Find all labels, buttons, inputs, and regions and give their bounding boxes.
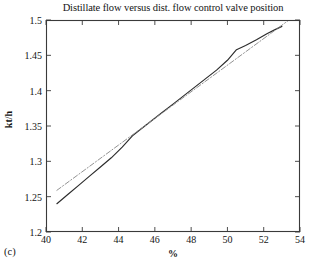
- y-tick-label: 1.25: [25, 191, 43, 202]
- x-tick-label: 46: [150, 234, 160, 245]
- x-tick-label: 44: [114, 234, 124, 245]
- series-measured: [57, 26, 282, 203]
- plot-area: 1.21.251.31.351.41.451.5 404244464850525…: [46, 20, 300, 232]
- x-tick-label: 42: [77, 234, 87, 245]
- series-linear-fit: [57, 19, 291, 191]
- y-tick-label: 1.4: [30, 85, 43, 96]
- x-axis-label: %: [46, 248, 300, 259]
- y-tick-label: 1.35: [25, 121, 43, 132]
- x-tick-label: 48: [186, 234, 196, 245]
- chart-title: Distillate flow versus dist. flow contro…: [46, 1, 300, 15]
- x-tick-label: 52: [259, 234, 269, 245]
- panel-caption: (c): [4, 246, 16, 257]
- y-axis-label: kt/h: [3, 100, 14, 140]
- y-tick-label: 1.5: [30, 15, 43, 26]
- figure-panel: Distillate flow versus dist. flow contro…: [0, 0, 317, 268]
- axes-box: [47, 21, 300, 232]
- x-tick-label: 50: [222, 234, 232, 245]
- plot-canvas: [46, 20, 300, 232]
- y-tick-label: 1.3: [30, 156, 43, 167]
- y-tick-label: 1.45: [25, 50, 43, 61]
- x-tick-label: 54: [295, 234, 305, 245]
- x-tick-label: 40: [41, 234, 51, 245]
